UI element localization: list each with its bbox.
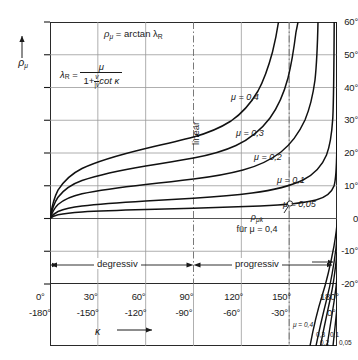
range-arrows <box>50 262 332 267</box>
lower-label-0-3: 0,3 <box>316 331 325 338</box>
curve-label-mu-0-4: μ = 0,4 <box>231 92 259 102</box>
y-tick-label: -20° <box>316 278 358 289</box>
curve-label-mu-0-3: μ = 0,3 <box>236 128 264 138</box>
y-tick-label: 20° <box>316 147 358 158</box>
curve-label-mu-0-05: μ = 0,05 <box>283 199 316 209</box>
curve-label-mu-0-2: μ = 0,2 <box>254 152 282 162</box>
y-tick-label: 30° <box>316 114 358 125</box>
y-axis-title-sub: μ <box>24 62 28 69</box>
y-tick-marks <box>44 22 50 284</box>
lower-label-0-2: 0,2 <box>320 339 329 346</box>
callout-line-2: für μ = 0,4 <box>212 224 302 235</box>
formula-rho-definition: ρμ = arctan λR <box>104 28 163 40</box>
lower-label-0-1: 0,1 <box>330 331 339 338</box>
chart-figure: 60° 50° 40° 30° 20° 10° 0 -10° -20° ρμ 0… <box>0 0 358 360</box>
y-tick-label: 40° <box>316 82 358 93</box>
x-axis-title: κ <box>95 325 100 337</box>
lower-label-0-05: 0,05 <box>339 339 352 346</box>
lower-label-mu-0-4: μ = 0,4 <box>293 321 313 328</box>
range-label-progressiv: progressiv <box>232 258 282 269</box>
y-tick-label: 50° <box>316 49 358 60</box>
y-tick-label: 60° <box>316 16 358 27</box>
y-tick-label: 0 <box>316 213 358 224</box>
curve-label-mu-0-1: μ = 0,1 <box>277 175 305 185</box>
y-axis-title: ρμ <box>2 52 44 70</box>
range-label-degressiv: degressiv <box>94 258 141 269</box>
callout-line-1: ρμk <box>212 212 302 224</box>
y-tick-label: 10° <box>316 180 358 191</box>
y-tick-label: -10° <box>316 245 358 256</box>
formula-lambda-definition: λR = μ 1+v|vcot κ <box>60 62 122 88</box>
linear-asymptote-label: linear <box>190 122 201 145</box>
formula-fraction: μ 1+v|vcot κ <box>80 62 122 88</box>
rho-mu-k-callout: ρμk für μ = 0,4 <box>212 212 302 235</box>
